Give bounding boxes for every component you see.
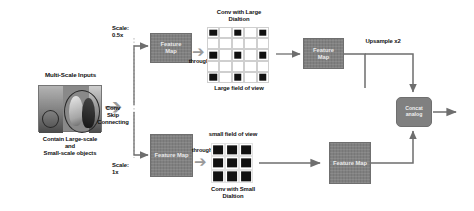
grid-cell	[244, 61, 256, 72]
grid-cell	[244, 27, 256, 38]
grid-cell	[244, 38, 256, 49]
grid-cell	[207, 61, 219, 72]
small-dilation-kernel-grid	[211, 143, 253, 183]
grid-cell	[219, 61, 231, 72]
grid-cell	[257, 38, 269, 49]
grid-cell	[239, 170, 253, 183]
grid-cell	[219, 49, 231, 60]
grid-cell	[244, 72, 256, 83]
large-dilation-kernel-grid	[207, 27, 269, 83]
grid-cell	[225, 143, 239, 156]
grid-cell	[232, 72, 244, 83]
top-conv-title: Conv with Large Dialtion	[198, 9, 280, 23]
grid-cell	[219, 27, 231, 38]
bottom-feature-map-input: Feature Map	[150, 134, 193, 177]
grid-cell	[239, 156, 253, 169]
grid-cell	[232, 38, 244, 49]
bottom-conv-title: Conv with Small Dialtion	[196, 186, 270, 200]
grid-cell	[225, 170, 239, 183]
grid-cell	[219, 72, 231, 83]
bottom-feature-map-output: Feature Map	[329, 142, 371, 184]
upsample-label: Upsample x2	[357, 38, 409, 45]
grid-cell	[219, 38, 231, 49]
grid-cell	[232, 61, 244, 72]
grid-cell	[207, 27, 219, 38]
grid-cell	[225, 156, 239, 169]
bottom-scale-label: Scale: 1x	[112, 162, 140, 176]
small-field-of-view-label: small field of view	[203, 131, 263, 138]
grid-cell	[207, 38, 219, 49]
concat-node: Concat analog	[396, 97, 432, 127]
input-title: Multi-Scale Inputs	[28, 71, 113, 78]
grid-cell	[239, 143, 253, 156]
grid-cell	[257, 61, 269, 72]
top-scale-label: Scale: 0.5x	[112, 25, 140, 39]
grid-cell	[207, 72, 219, 83]
grid-cell	[257, 72, 269, 83]
small-scale-object-marker	[42, 110, 59, 128]
input-caption: Contain Large-scale and Small-scale obje…	[24, 136, 116, 157]
grid-cell	[244, 49, 256, 60]
grid-cell	[211, 170, 225, 183]
grid-cell	[211, 143, 225, 156]
diagram-canvas: Multi-Scale Inputs Contain Large-scale a…	[0, 0, 474, 211]
grid-cell	[232, 27, 244, 38]
bottom-through-block-arrow: ➔	[194, 155, 207, 170]
grid-cell	[257, 27, 269, 38]
grid-cell	[207, 49, 219, 60]
grid-cell	[257, 49, 269, 60]
top-feature-map-output: Feature Map	[303, 38, 344, 69]
grid-cell	[232, 49, 244, 60]
large-field-of-view-label: Large field of view	[198, 85, 280, 92]
skip-connect-label: Conv Skip Connecting	[93, 105, 133, 126]
grid-cell	[211, 156, 225, 169]
